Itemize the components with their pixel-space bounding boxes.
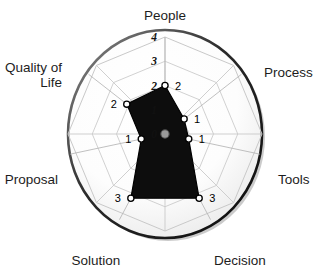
- radar-center-marker: [161, 130, 169, 138]
- data-marker-tools: [186, 136, 192, 142]
- value-label-decision: 3: [209, 192, 215, 204]
- radar-chart-figure: 43210 2113312 PeopleProcessToolsDecision…: [0, 0, 322, 275]
- ring-tick-label-3: 3: [150, 55, 157, 67]
- data-marker-decision: [196, 195, 202, 201]
- axis-label-decision: Decision: [214, 253, 266, 268]
- value-label-proposal: 1: [125, 133, 131, 145]
- ring-tick-label-0: 0: [151, 128, 157, 140]
- data-marker-proposal: [138, 136, 144, 142]
- axis-label-process: Process: [264, 65, 313, 80]
- data-marker-process: [181, 116, 187, 122]
- value-label-quality-of-life: 2: [111, 98, 117, 110]
- ring-tick-label-1: 1: [151, 104, 157, 116]
- axis-label-people: People: [144, 8, 186, 23]
- axis-label-line: Solution: [72, 253, 121, 268]
- value-label-process: 1: [194, 113, 200, 125]
- center-origin-marker: [161, 130, 169, 138]
- axis-label-line: Quality of: [5, 60, 62, 75]
- axis-label-solution: Solution: [72, 253, 121, 268]
- axis-label-line: Process: [264, 65, 313, 80]
- axis-label-line: Tools: [278, 172, 310, 187]
- data-marker-people: [162, 82, 168, 88]
- value-label-people: 2: [175, 80, 181, 92]
- ring-tick-label-4: 4: [150, 31, 157, 43]
- axis-label-line: Life: [40, 75, 62, 90]
- value-label-solution: 3: [115, 192, 121, 204]
- axis-label-line: Proposal: [5, 172, 58, 187]
- axis-label-line: People: [144, 8, 186, 23]
- value-label-tools: 1: [199, 133, 205, 145]
- axis-label-proposal: Proposal: [5, 172, 58, 187]
- data-marker-solution: [128, 195, 134, 201]
- axis-label-quality-of-life: Quality ofLife: [5, 60, 62, 90]
- axis-label-tools: Tools: [278, 172, 310, 187]
- ring-tick-label-2: 2: [150, 80, 157, 92]
- radar-chart-svg: 43210 2113312 PeopleProcessToolsDecision…: [0, 0, 322, 275]
- axis-label-line: Decision: [214, 253, 266, 268]
- data-marker-quality-of-life: [124, 101, 130, 107]
